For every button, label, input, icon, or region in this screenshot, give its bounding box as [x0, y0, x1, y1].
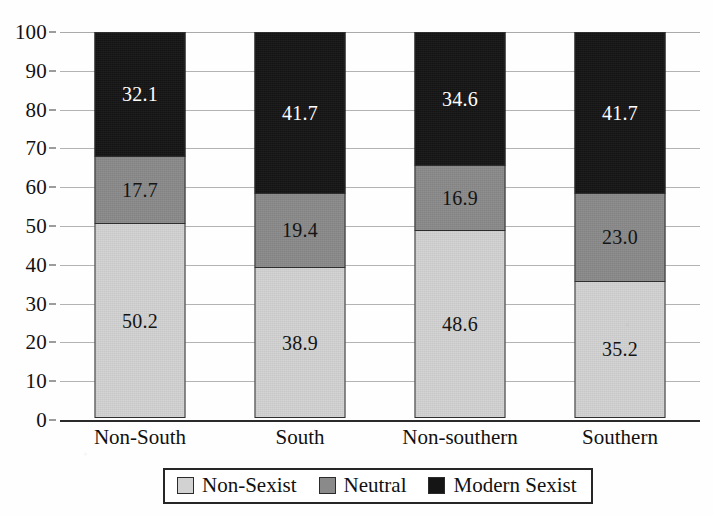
y-axis-tick-label: 20: [26, 332, 47, 353]
bar-slot: 34.616.948.6: [380, 32, 540, 420]
legend-label: Non-Sexist: [202, 475, 297, 496]
x-axis-category-label: Southern: [540, 426, 700, 449]
y-axis-tick-label: 100: [15, 22, 47, 43]
y-axis-tick-mark: [49, 32, 56, 33]
y-axis-tick-mark: [49, 381, 56, 382]
y-axis-tick-mark: [49, 148, 56, 149]
y-axis-tick-label: 80: [26, 99, 47, 120]
legend-label: Modern Sexist: [453, 475, 576, 496]
y-axis-tick-label: 30: [26, 293, 47, 314]
bar-segment-neutral[interactable]: 19.4: [255, 193, 346, 268]
bar-segment-value-label: 35.2: [602, 339, 638, 359]
bar-segment-modern[interactable]: 32.1: [95, 32, 186, 157]
legend-swatch-modern: [428, 477, 445, 494]
y-axis-tick-mark: [49, 303, 56, 304]
y-axis-tick-mark: [49, 264, 56, 265]
legend-item[interactable]: Neutral: [319, 475, 407, 496]
bar-segment-value-label: 32.1: [122, 84, 158, 104]
y-axis-tick-label: 70: [26, 138, 47, 159]
gridline: [60, 420, 700, 422]
bar-segment-value-label: 48.6: [442, 314, 478, 334]
legend-swatch-nonsex: [177, 477, 194, 494]
bar-slot: 41.719.438.9: [220, 32, 380, 420]
y-axis: 1009080706050403020100: [0, 0, 60, 516]
bar-segment-modern[interactable]: 41.7: [255, 32, 346, 194]
bar-segment-nonsex[interactable]: 50.2: [95, 223, 186, 418]
bar-segment-value-label: 16.9: [442, 188, 478, 208]
legend-item[interactable]: Non-Sexist: [177, 475, 297, 496]
y-axis-tick-label: 0: [36, 410, 47, 431]
plot-area: 32.117.750.241.719.438.934.616.948.641.7…: [60, 32, 700, 420]
x-axis: Non-SouthSouthNon-southernSouthern: [60, 424, 700, 458]
y-axis-tick-mark: [49, 109, 56, 110]
y-axis-tick-mark: [49, 226, 56, 227]
bar-segment-neutral[interactable]: 17.7: [95, 156, 186, 225]
y-axis-tick-label: 60: [26, 177, 47, 198]
bar-segment-neutral[interactable]: 23.0: [575, 193, 666, 282]
bar-segment-value-label: 19.4: [282, 220, 318, 240]
y-axis-tick-mark: [49, 187, 56, 188]
bar-segment-value-label: 23.0: [602, 227, 638, 247]
y-axis-tick-label: 90: [26, 60, 47, 81]
stacked-bar[interactable]: 34.616.948.6: [415, 32, 506, 420]
x-axis-category-label: Non-South: [60, 426, 220, 449]
bar-segment-value-label: 17.7: [122, 180, 158, 200]
bar-segment-nonsex[interactable]: 35.2: [575, 281, 666, 418]
legend-item[interactable]: Modern Sexist: [428, 475, 576, 496]
bar-segment-nonsex[interactable]: 38.9: [255, 267, 346, 418]
stacked-bar[interactable]: 32.117.750.2: [95, 32, 186, 420]
y-axis-tick-mark: [49, 342, 56, 343]
stacked-bar[interactable]: 41.723.035.2: [575, 32, 666, 420]
legend-label: Neutral: [344, 475, 407, 496]
bar-slot: 41.723.035.2: [540, 32, 700, 420]
bar-segment-modern[interactable]: 41.7: [575, 32, 666, 194]
bar-segment-value-label: 41.7: [282, 103, 318, 123]
y-axis-tick-mark: [49, 70, 56, 71]
legend-swatch-neutral: [319, 477, 336, 494]
bar-segment-modern[interactable]: 34.6: [415, 32, 506, 166]
y-axis-tick-mark: [49, 420, 56, 421]
bar-segment-value-label: 34.6: [442, 89, 478, 109]
x-axis-category-label: Non-southern: [380, 426, 540, 449]
x-axis-category-label: South: [220, 426, 380, 449]
bar-segment-value-label: 41.7: [602, 103, 638, 123]
bar-segment-value-label: 50.2: [122, 311, 158, 331]
bar-segment-value-label: 38.9: [282, 333, 318, 353]
y-axis-tick-label: 40: [26, 254, 47, 275]
stacked-bar[interactable]: 41.719.438.9: [255, 32, 346, 420]
bar-slot: 32.117.750.2: [60, 32, 220, 420]
bar-segment-neutral[interactable]: 16.9: [415, 165, 506, 231]
y-axis-tick-label: 50: [26, 216, 47, 237]
y-axis-tick-label: 10: [26, 371, 47, 392]
stacked-bar-chart: 1009080706050403020100 32.117.750.241.71…: [0, 0, 713, 516]
chart-legend: Non-SexistNeutralModern Sexist: [163, 468, 593, 504]
bar-segment-nonsex[interactable]: 48.6: [415, 230, 506, 419]
